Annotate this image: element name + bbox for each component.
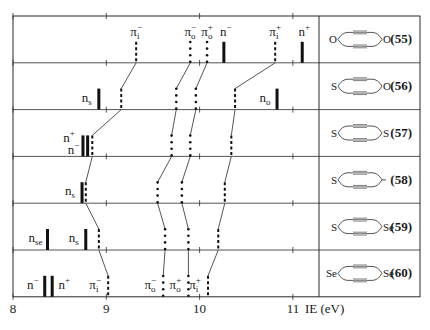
pi-outer-dot [181,188,184,191]
axis-tick-label: 9 [103,301,110,316]
pi-outer-dot [181,201,184,204]
level-label: nse [29,230,43,247]
pi-outer-dot [162,295,165,298]
structure-57: SS(57) [331,125,412,142]
lower-bridge [338,133,382,140]
pi-outer-dot [170,134,173,137]
pi-outer-dot [206,47,209,50]
pi-outer-dot [189,148,192,151]
level-label: n+ [298,22,310,39]
pi-outer-dot [170,148,173,151]
pes-correlation-diagram: π−iπ−oπ+on−π+in+nsnon+n−nsnsensn−n+π−iπ−… [0,0,430,330]
compound-number: (58) [390,172,412,187]
pi-outer-dot [164,228,167,231]
pi-outer-dot [162,275,165,278]
compound-number: (60) [390,265,412,280]
pi-outer-dot [162,288,165,291]
x-axis: 891011IE (eV) [10,301,344,316]
pi-outer-dot [206,61,209,64]
left-heteroatom: S [331,221,337,233]
pi-outer-dot [175,101,178,104]
row-56: nsno [82,88,277,110]
level-label: n− [27,275,39,292]
level-label: no [260,90,272,107]
upper-bridge [338,220,382,227]
pi-outer-dot [181,194,184,197]
level-label: n+ [58,275,70,292]
pi-outer-dot [206,41,209,44]
pi-outer-dot [156,188,159,191]
pi-outer-dot [206,54,209,57]
pi-outer-dot [189,47,192,50]
pi-outer-dot [195,88,198,91]
correlation-line [99,250,108,276]
lower-bridge [338,180,382,187]
correlation-line [182,203,189,229]
pi-outer-dot [187,248,190,251]
pi-outer-dot [189,54,192,57]
correlation-line [182,156,190,182]
compound-number: (57) [390,125,412,140]
level-label: π+o [170,275,182,294]
pi-outer-dot [164,241,167,244]
level-label: π−o [184,22,196,41]
correlation-line [92,110,121,136]
pi-outer-dot [170,141,173,144]
pi-outer-dot [156,201,159,204]
pi-outer-dot [195,107,198,110]
structure-59: SSe(59) [331,218,412,235]
correlation-line [158,203,165,229]
level-label: n− [68,140,80,157]
row-57: n+n− [63,128,231,157]
pi-outer-dot [175,88,178,91]
pi-outer-dot [195,101,198,104]
lower-bridge [338,273,382,280]
pi-outer-dot [189,154,192,157]
correlation-line [218,203,225,229]
structure-55: OO(55) [329,31,412,48]
pi-outer-dot [175,94,178,97]
correlation-lines [86,63,275,276]
axis-title: IE (eV) [305,301,344,316]
pi-outer-dot [187,228,190,231]
upper-bridge [338,173,382,180]
correlation-line [121,63,136,89]
row-59: nsens [29,228,219,250]
pi-outer-dot [187,295,190,298]
pi-outer-dot [156,194,159,197]
left-heteroatom: S [331,127,337,139]
row-58: ns [65,181,225,203]
pi-outer-dot [189,134,192,137]
left-heteroatom: S [331,174,337,186]
correlation-line [196,63,207,89]
level-label: π−i [130,22,142,41]
pi-outer-dot [156,181,159,184]
level-label: π+i [189,275,201,294]
level-label: ns [65,183,76,200]
correlation-line [225,156,232,182]
upper-bridge [338,126,382,133]
level-label: π+i [269,22,281,41]
upper-bridge [338,79,382,86]
level-label: ns [82,90,93,107]
pi-outer-dot [187,235,190,238]
correlation-line [86,203,99,229]
correlation-line [176,63,190,89]
level-label: π−i [89,275,101,294]
pi-outer-dot [187,241,190,244]
correlation-line [158,156,172,182]
correlation-line [172,110,177,136]
axis-tick-label: 8 [10,301,17,316]
pi-outer-dot [195,94,198,97]
pi-outer-dot [162,281,165,284]
pi-outer-dot [164,248,167,251]
axis-tick-label: 11 [287,301,300,316]
structure-60: SeSe(60) [326,265,412,282]
pi-outer-dot [175,107,178,110]
left-heteroatom: O [329,33,337,45]
correlation-line [231,110,235,136]
pi-outer-dot [189,41,192,44]
correlation-line [86,156,93,182]
pi-outer-dot [181,181,184,184]
row-55: π−iπ−oπ+on−π+in+ [130,22,310,63]
